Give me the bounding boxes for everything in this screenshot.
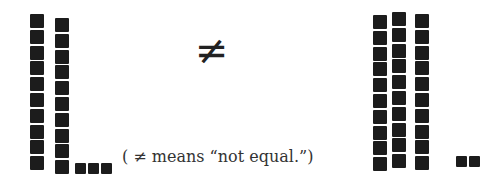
rod-unit-square <box>392 12 406 26</box>
rod-unit-square <box>415 61 429 75</box>
rod-unit-square <box>392 107 406 121</box>
rod-unit-square <box>392 44 406 58</box>
one-unit-block <box>469 156 480 167</box>
rod-unit-square <box>415 77 429 91</box>
rod-unit-square <box>373 15 387 29</box>
rod-unit-square <box>415 156 429 170</box>
rod-unit-square <box>392 123 406 137</box>
rod-unit-square <box>392 154 406 168</box>
rod-unit-square <box>415 93 429 107</box>
rod-unit-square <box>415 140 429 154</box>
rod-unit-square <box>392 59 406 73</box>
rod-unit-square <box>373 62 387 76</box>
rod-unit-square <box>373 141 387 155</box>
rod-unit-square <box>373 110 387 124</box>
rod-unit-square <box>373 47 387 61</box>
one-unit-block <box>456 156 467 167</box>
rod-unit-square <box>373 126 387 140</box>
rod-unit-square <box>392 91 406 105</box>
rod-unit-square <box>392 138 406 152</box>
right-base-ten-blocks <box>0 0 501 180</box>
rod-unit-square <box>373 94 387 108</box>
rod-unit-square <box>415 46 429 60</box>
rod-unit-square <box>415 30 429 44</box>
rod-unit-square <box>373 31 387 45</box>
rod-unit-square <box>415 14 429 28</box>
rod-unit-square <box>373 78 387 92</box>
rod-unit-square <box>392 75 406 89</box>
rod-unit-square <box>415 109 429 123</box>
rod-unit-square <box>392 28 406 42</box>
rod-unit-square <box>373 157 387 171</box>
rod-unit-square <box>415 125 429 139</box>
